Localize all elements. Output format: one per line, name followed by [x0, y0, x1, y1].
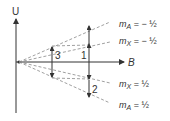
energy-level-diagram: U B 3 1 2 mA = − ½ mX = − ½ mX = ½ mA = … — [0, 0, 170, 121]
transition-label-1: 1 — [81, 50, 87, 61]
level-line-ma-neg — [19, 22, 110, 62]
level-line-mx-neg — [19, 42, 110, 62]
field-axis-label: B — [128, 57, 135, 68]
guide-line-lower — [52, 78, 89, 79]
level-label-mx-neg: mX = − ½ — [119, 36, 157, 47]
level-label-ma-pos: mA = ½ — [119, 100, 149, 111]
transition-label-3: 3 — [55, 50, 61, 61]
energy-axis-label: U — [12, 6, 19, 17]
level-label-ma-neg: mA = − ½ — [119, 19, 157, 30]
level-line-mx-pos — [19, 62, 110, 83]
level-line-ma-pos — [19, 62, 110, 103]
transition-label-2: 2 — [92, 84, 98, 95]
level-label-mx-pos: mX = ½ — [119, 79, 149, 90]
